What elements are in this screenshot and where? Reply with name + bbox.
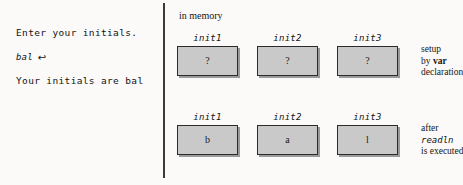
note-line-1: after <box>421 123 463 135</box>
memory-cell-label: init2 <box>257 33 318 43</box>
memory-cell-box: b <box>177 125 238 155</box>
memory-cell-label: init1 <box>177 33 238 43</box>
memory-row-initial: init1 ? init2 ? init3 ? setup by var <box>177 33 463 79</box>
vertical-divider <box>163 3 165 178</box>
memory-caption: in memory <box>179 10 223 21</box>
memory-cell-label: init3 <box>337 112 398 122</box>
note-line-2: by var <box>421 56 463 68</box>
memory-cell-group: init2 a <box>257 112 318 155</box>
memory-cell-label: init3 <box>337 33 398 43</box>
memory-cell-group: init3 l <box>337 112 398 155</box>
memory-cell-label: init1 <box>177 112 238 122</box>
console-line-prompt: Enter your initials. <box>16 27 158 39</box>
note-line-2-prefix: by <box>421 56 433 66</box>
memory-cell-group: init2 ? <box>257 33 318 76</box>
memory-cell-value: a <box>285 135 289 145</box>
memory-cell-group: init1 b <box>177 112 238 155</box>
console-line-echo: Your initials are bal <box>16 75 158 87</box>
note-line-1: setup <box>421 44 463 56</box>
console-output-panel: Enter your initials. bal↩ Your initials … <box>16 27 158 99</box>
memory-cell-label: init2 <box>257 112 318 122</box>
memory-row-note: after readln is executed <box>421 112 463 158</box>
memory-diagram-panel: in memory init1 ? init2 ? init3 ? <box>177 0 452 185</box>
user-input-text: bal <box>16 52 33 62</box>
memory-cell-box: ? <box>177 46 238 76</box>
memory-cell-value: b <box>205 135 210 145</box>
memory-cell-box: a <box>257 125 318 155</box>
note-line-3: is executed <box>421 146 463 158</box>
memory-row-after-readln: init1 b init2 a init3 l after readln <box>177 112 463 158</box>
memory-cell-group: init3 ? <box>337 33 398 76</box>
memory-cell-group: init1 ? <box>177 33 238 76</box>
memory-cell-value: ? <box>205 56 209 66</box>
memory-cell-value: l <box>366 135 369 145</box>
note-code-readln: readln <box>421 135 463 147</box>
console-line-user-input: bal↩ <box>16 51 158 63</box>
memory-row-note: setup by var declaration <box>421 33 463 79</box>
memory-cell-box: l <box>337 125 398 155</box>
memory-cell-box: ? <box>257 46 318 76</box>
memory-cell-value: ? <box>285 56 289 66</box>
return-key-icon: ↩ <box>38 52 47 63</box>
note-line-3: declaration <box>421 67 463 79</box>
memory-cell-box: ? <box>337 46 398 76</box>
memory-cell-value: ? <box>365 56 369 66</box>
note-keyword-var: var <box>433 56 447 66</box>
